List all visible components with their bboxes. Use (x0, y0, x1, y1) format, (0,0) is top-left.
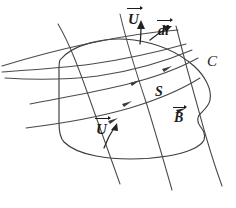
vector-overarrow-b (173, 107, 186, 108)
label-velocity-u-bottom: U (96, 122, 107, 137)
label-text-b: B (174, 110, 183, 125)
velocity-vector-bottom-arrowhead (111, 123, 118, 131)
label-text-u-bottom: U (96, 121, 107, 137)
label-text-u-top: U (128, 11, 139, 27)
label-text-c: C (207, 53, 217, 69)
figure-root: U dl C S B U (0, 0, 236, 208)
vector-overarrow-dl (157, 20, 172, 21)
label-boundary-curve-c: C (207, 54, 217, 69)
direction-arrowhead-2 (130, 80, 140, 86)
label-magnetic-field-b: B (174, 111, 183, 125)
flux-diagram-svg (0, 0, 236, 208)
direction-arrowhead-3 (122, 101, 132, 107)
interior-field-curve-1 (2, 30, 178, 66)
magnetic-field-line-2 (120, 14, 172, 190)
interior-field-curve-3 (5, 50, 192, 79)
surface-band-curve-1 (30, 58, 198, 104)
label-surface-s: S (155, 85, 163, 99)
label-text-dl: dl (158, 23, 169, 38)
label-velocity-u-top: U (128, 12, 139, 27)
vector-overarrow-u-top (127, 8, 142, 9)
vector-overarrow-u-bottom (95, 118, 110, 119)
label-text-s: S (155, 84, 163, 99)
label-line-element-dl: dl (158, 24, 169, 38)
